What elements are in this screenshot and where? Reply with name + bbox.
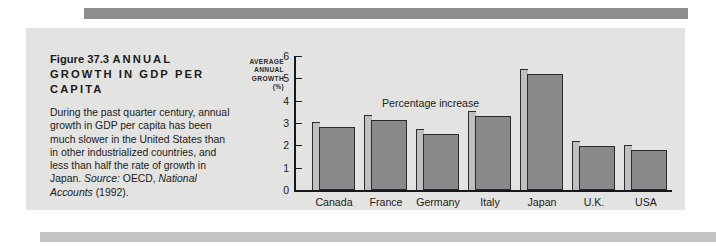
figure-panel: Figure 37.3 ANNUAL GROWTH IN GDP PER CAP… — [26, 28, 685, 210]
bar-japan — [520, 69, 564, 190]
bar-front-face — [423, 134, 459, 190]
y-tick-mark — [296, 123, 302, 124]
y-tick-label: 2 — [283, 139, 289, 151]
y-tick-mark — [296, 101, 302, 102]
bar-front-face — [371, 120, 407, 190]
y-tick-mark — [296, 145, 302, 146]
figure-title: Figure 37.3 ANNUAL GROWTH IN GDP PER CAP… — [50, 52, 232, 97]
bar-front-face — [631, 150, 667, 190]
plot-area: 0123456 CanadaFranceGermanyItalyJapanU.K… — [294, 56, 672, 192]
y-axis-title-line-3: GROWTH — [222, 75, 284, 83]
bar-uk — [572, 141, 616, 190]
figure-number: Figure 37.3 — [50, 53, 109, 65]
y-axis-line — [294, 56, 296, 192]
page-band-bottom — [40, 232, 716, 242]
source-year: (1992). — [96, 187, 129, 198]
x-label-france: France — [360, 196, 412, 208]
y-axis-title-line-2: ANNUAL — [222, 66, 284, 74]
figure-caption: Figure 37.3 ANNUAL GROWTH IN GDP PER CAP… — [50, 52, 232, 199]
bar-usa — [624, 145, 668, 190]
y-tick-label: 0 — [283, 184, 289, 196]
x-axis-line — [294, 190, 672, 192]
y-tick-label: 4 — [283, 95, 289, 107]
bar-canada — [312, 122, 356, 190]
bar-front-face — [319, 127, 355, 190]
y-tick-mark — [296, 78, 302, 79]
y-tick-mark — [296, 168, 302, 169]
x-label-uk: U.K. — [568, 196, 620, 208]
y-tick-label: 1 — [283, 162, 289, 174]
y-tick-mark — [296, 56, 302, 57]
y-tick-label: 3 — [283, 117, 289, 129]
bar-front-face — [579, 146, 615, 190]
bar-italy — [468, 111, 512, 190]
x-label-germany: Germany — [412, 196, 464, 208]
y-axis-title: AVERAGE ANNUAL GROWTH (%) — [222, 58, 284, 92]
bar-front-face — [527, 74, 563, 190]
chart-annotation: Percentage increase — [382, 97, 479, 109]
x-label-canada: Canada — [308, 196, 360, 208]
bar-germany — [416, 129, 460, 190]
source-label: Source: — [84, 173, 120, 184]
page-band-top — [84, 8, 688, 19]
x-label-italy: Italy — [464, 196, 516, 208]
bar-chart: AVERAGE ANNUAL GROWTH (%) 0123456 Canada… — [222, 34, 677, 210]
y-tick-label: 6 — [283, 50, 289, 62]
y-axis-title-line-4: (%) — [222, 83, 284, 91]
y-tick-mark — [296, 190, 302, 191]
bar-front-face — [475, 116, 511, 190]
source-text: OECD, — [123, 173, 156, 184]
figure-body: During the past quarter century, annual … — [50, 106, 232, 199]
y-axis-title-line-1: AVERAGE — [222, 58, 284, 66]
bar-france — [364, 115, 408, 190]
x-label-usa: USA — [620, 196, 672, 208]
x-label-japan: Japan — [516, 196, 568, 208]
y-tick-label: 5 — [283, 72, 289, 84]
